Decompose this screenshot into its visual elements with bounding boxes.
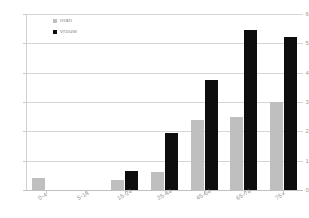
bar-group: [145, 14, 185, 190]
bar-vrouw-75+: [284, 37, 297, 190]
bar-man-25-44: [151, 172, 164, 190]
x-tick-label-75+: 75+: [274, 191, 287, 202]
bar-group: [26, 14, 66, 190]
bar-man-75+: [270, 102, 283, 190]
bar-group: [105, 14, 145, 190]
chart-legend: manvrouw: [53, 16, 77, 38]
bar-man-0-4: [32, 178, 45, 190]
legend-item-man: man: [53, 16, 77, 25]
legend-label: man: [60, 17, 72, 24]
bar-vrouw-45-64: [205, 80, 218, 190]
bar-vrouw-65-74: [244, 30, 257, 190]
x-tick-label-5-14: 5-14: [76, 190, 91, 202]
bar-group: [224, 14, 264, 190]
bar-vrouw-25-44: [165, 133, 178, 190]
bar-chart: 0123456 0-45-1415-2425-4445-6465-7475+ m…: [0, 0, 309, 218]
legend-swatch-vrouw-icon: [53, 30, 57, 34]
bar-man-65-74: [230, 117, 243, 190]
bar-man-45-64: [191, 120, 204, 190]
legend-item-vrouw: vrouw: [53, 27, 77, 36]
bar-man-15-24: [111, 180, 124, 190]
legend-label: vrouw: [60, 28, 77, 35]
bar-group: [263, 14, 303, 190]
plot-area: [26, 14, 303, 190]
bar-group: [66, 14, 106, 190]
bar-vrouw-15-24: [125, 171, 138, 190]
bar-group: [184, 14, 224, 190]
legend-swatch-man-icon: [53, 19, 57, 23]
